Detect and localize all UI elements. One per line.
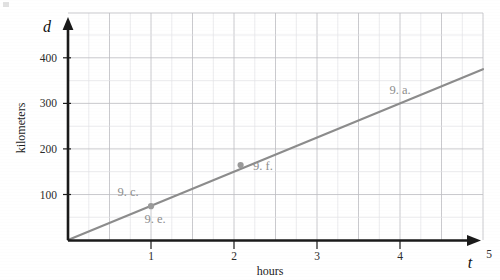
annotation-9e: 9. e. <box>144 212 165 226</box>
y-axis-unit-label: kilometers <box>14 102 28 153</box>
x-tick-label-3: 3 <box>314 250 320 262</box>
coordinate-plane-chart: 400 300 200 100 1 2 3 4 5 d t kilometers… <box>0 0 500 280</box>
graph-figure: 400 300 200 100 1 2 3 4 5 d t kilometers… <box>0 0 500 280</box>
y-tick-label-400: 400 <box>40 52 58 64</box>
y-axis-variable-label: d <box>43 18 52 35</box>
annotation-9c: 9. c. <box>117 185 138 199</box>
annotation-9a: 9. a. <box>389 83 410 97</box>
x-tick-label-1: 1 <box>148 250 154 262</box>
x-axis-variable-label: t <box>468 254 473 271</box>
annotation-9f: 9. f. <box>253 159 273 173</box>
data-point-2 <box>238 162 244 168</box>
x-axis-unit-label: hours <box>257 264 284 278</box>
y-tick-label-200: 200 <box>40 143 58 155</box>
y-tick-label-100: 100 <box>40 189 58 201</box>
x-tick-label-2: 2 <box>231 250 237 262</box>
y-tick-label-300: 300 <box>40 97 58 109</box>
scan-artifact-mark <box>3 2 9 7</box>
data-point-1 <box>148 203 154 209</box>
x-tick-label-4: 4 <box>397 250 403 262</box>
x-tick-label-5: 5 <box>486 248 492 260</box>
